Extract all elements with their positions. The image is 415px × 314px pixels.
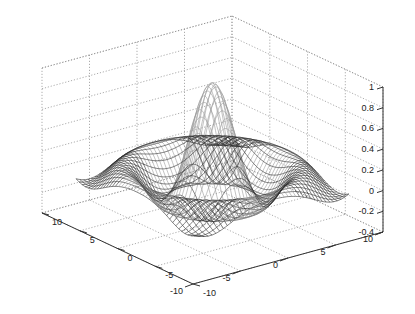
surface-mesh xyxy=(76,83,349,237)
x-tick-label: -10 xyxy=(203,288,216,298)
z-tick-label: 0.6 xyxy=(361,123,374,133)
surface-plot: -0.4-0.200.20.40.60.811050-5-10-10-50510 xyxy=(0,0,415,314)
y-tick-label: -5 xyxy=(222,273,230,283)
z-tick-label: 0.2 xyxy=(361,165,374,175)
z-tick-label: 0.8 xyxy=(361,103,374,113)
x-tick-label: 0 xyxy=(128,253,133,263)
z-tick-label: -0.2 xyxy=(358,206,374,216)
z-tick-label: 0.4 xyxy=(361,144,374,154)
x-tick-label: 10 xyxy=(52,217,62,227)
y-tick-label: 10 xyxy=(363,234,373,244)
y-tick-label: 5 xyxy=(320,247,325,257)
x-tick-label: -5 xyxy=(165,270,173,280)
y-tick-label: -10 xyxy=(170,286,183,296)
z-tick-label: 1 xyxy=(369,82,374,92)
z-tick-label: 0 xyxy=(369,186,374,196)
x-tick-label: 5 xyxy=(90,235,95,245)
y-tick-label: 0 xyxy=(273,260,278,270)
